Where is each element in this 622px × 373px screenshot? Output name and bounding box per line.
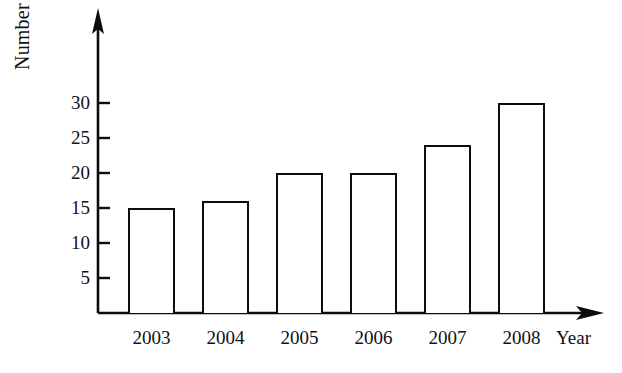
bar-2005: [276, 173, 323, 313]
y-axis-title: Number of wardrobes sold: [2, 0, 42, 70]
y-tick-label-5: 5: [50, 267, 90, 289]
x-tick-label-2007: 2007: [429, 327, 467, 349]
y-tick-label-15: 15: [50, 197, 90, 219]
x-tick-label-2003: 2003: [133, 327, 171, 349]
x-tick-label-2004: 2004: [207, 327, 245, 349]
x-tick-label-2006: 2006: [355, 327, 393, 349]
y-tick-label-25: 25: [50, 127, 90, 149]
bar-chart-figure: Number of wardrobes sold 5 10 15 20 25 3…: [0, 0, 622, 373]
x-axis-title: Year: [556, 327, 591, 349]
y-tick-label-20: 20: [50, 162, 90, 184]
plot-area: Number of wardrobes sold 5 10 15 20 25 3…: [0, 0, 622, 373]
x-tick-label-2008: 2008: [503, 327, 541, 349]
bar-2006: [350, 173, 397, 313]
bar-2004: [202, 201, 249, 313]
y-tick-label-10: 10: [50, 232, 90, 254]
x-tick-label-2005: 2005: [281, 327, 319, 349]
bar-2007: [424, 145, 471, 313]
bar-2003: [128, 208, 175, 313]
y-tick-label-30: 30: [50, 92, 90, 114]
bar-2008: [498, 103, 545, 313]
